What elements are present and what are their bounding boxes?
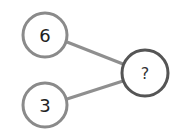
whole-label: ? [141, 64, 150, 83]
part-node-bottom: 3 [23, 83, 67, 127]
part-label-bottom: 3 [39, 95, 50, 116]
connector-top [67, 42, 123, 64]
part-label-top: 6 [39, 25, 50, 46]
connector-bottom [67, 81, 123, 99]
whole-node: ? [122, 50, 168, 96]
number-bond-diagram: 6 3 ? [0, 0, 183, 133]
part-node-top: 6 [23, 13, 67, 57]
